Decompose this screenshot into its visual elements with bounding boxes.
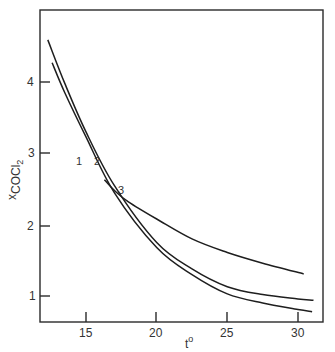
curve-label-1: 1 [76, 155, 82, 167]
x-tick-label: 15 [79, 326, 93, 340]
y-tick-label: 1 [29, 289, 36, 303]
curve-1 [52, 63, 312, 312]
y-tick-label: 3 [28, 146, 35, 160]
x-title-sup: o [188, 334, 193, 344]
plot-frame [40, 10, 323, 322]
y-axis: 4 3 2 1 [27, 75, 50, 303]
x-axis-title: to [185, 334, 193, 351]
x-tick-label: 25 [220, 326, 234, 340]
x-tick-label: 30 [291, 326, 305, 340]
curve-label-2: 2 [94, 155, 100, 167]
curve-label-3: 3 [118, 184, 124, 196]
y-tick-label: 4 [27, 75, 34, 89]
y-title-subsub: 2 [15, 160, 25, 165]
svg-text:xCOCl2: xCOCl2 [5, 160, 25, 200]
x-tick-label: 20 [149, 326, 163, 340]
y-axis-title: xCOCl2 [5, 160, 25, 200]
curve-2 [48, 40, 314, 300]
chart: 4 3 2 1 xCOCl2 15 20 25 30 to 1 2 3 [0, 0, 335, 352]
y-title-sub: COCl [9, 165, 23, 194]
y-tick-label: 2 [27, 219, 34, 233]
curve-3 [104, 180, 303, 274]
